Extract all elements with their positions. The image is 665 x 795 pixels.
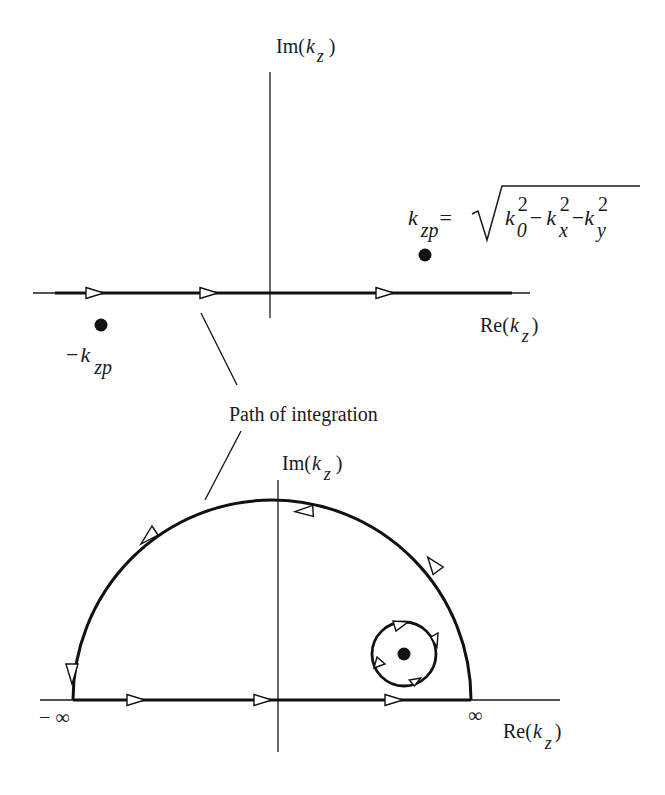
kzp-formula: kzp= k02−kx2−ky2	[408, 186, 640, 242]
path-arrow-icon	[127, 695, 145, 706]
negative-infinity-label: − ∞	[39, 706, 70, 728]
path-arrow-icon	[86, 288, 104, 299]
square-root-icon	[472, 186, 640, 240]
path-arrow-icon	[374, 657, 385, 668]
neg-kzp-label: −kzp	[66, 342, 112, 379]
path-arrow-icon	[200, 288, 218, 299]
kzp-lhs: kzp=	[408, 205, 452, 242]
top-re-axis-label: Re(kz)	[480, 314, 538, 346]
pole-negative-kzp	[95, 319, 108, 332]
positive-infinity-label: ∞	[468, 704, 482, 726]
kzp-radicand: k02−kx2−ky2	[505, 193, 608, 242]
semicircle-contour	[73, 500, 471, 700]
bottom-complex-plane: Im(kz) Re(kz) − ∞ ∞	[39, 452, 561, 753]
leader-line-bottom	[205, 431, 241, 500]
top-im-axis-label: Im(kz)	[276, 35, 335, 66]
bottom-im-axis-label: Im(kz)	[282, 452, 342, 484]
path-arrow-icon	[393, 621, 408, 631]
bottom-re-axis-label: Re(kz)	[503, 720, 561, 753]
path-arrow-icon	[254, 695, 272, 706]
top-complex-plane: Im(kz) Re(kz) kzp= k02−kx2−ky2 −kzp	[33, 35, 640, 379]
path-arrow-icon	[66, 664, 78, 684]
pole-kzp-bottom	[398, 648, 411, 661]
path-arrow-icon	[428, 555, 444, 575]
contour-integration-diagram: Im(kz) Re(kz) kzp= k02−kx2−ky2 −kzp Path…	[0, 0, 665, 795]
leader-line-top	[201, 313, 237, 385]
path-arrow-icon	[385, 695, 403, 706]
path-arrow-icon	[376, 288, 394, 299]
pole-positive-kzp	[419, 249, 432, 262]
path-arrow-icon	[295, 505, 314, 517]
path-of-integration-label: Path of integration	[229, 403, 378, 426]
